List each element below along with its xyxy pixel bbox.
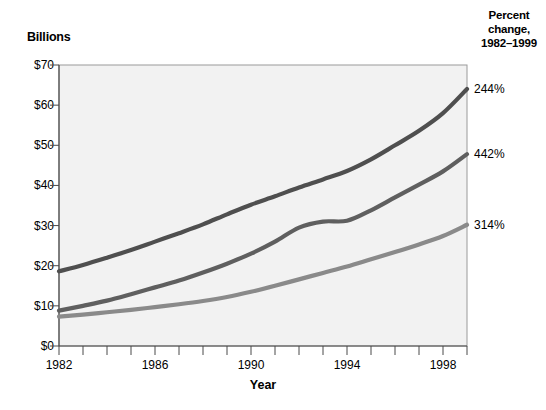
plot-background: [59, 65, 467, 346]
line-chart: Billions Percent change, 1982–1999 $70$6…: [0, 0, 546, 410]
plot-area: [0, 0, 546, 410]
